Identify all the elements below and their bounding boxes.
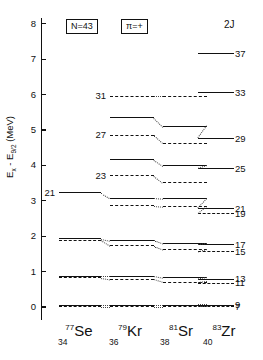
proton-number-kr: 36	[106, 338, 154, 347]
y-axis-line	[41, 18, 42, 320]
y-tick-1	[41, 271, 46, 272]
spin-label-left-2j21: 21	[33, 188, 55, 198]
parity-badge: π=+	[121, 19, 148, 34]
y-axis-title: Ex - E9/2 (MeV)	[5, 107, 19, 187]
connector-2j21	[154, 198, 163, 200]
spin-label-right-2j25: 25	[235, 164, 246, 174]
level-line-2j27-79Kr	[110, 135, 154, 136]
level-line-2j7-79Kr	[110, 306, 154, 307]
x-axis-label-se: 77Se34	[55, 322, 103, 347]
y-tick-label-7: 7	[20, 54, 36, 64]
spin-label-left-2j31: 31	[84, 91, 106, 101]
y-tick-7	[41, 59, 46, 60]
y-tick-0	[41, 306, 46, 307]
level-line-2j25-79Kr	[110, 159, 154, 160]
level-line-2j15-83Zr	[198, 251, 234, 252]
connector-2j19	[154, 206, 163, 208]
element-symbol-se: Se	[74, 322, 92, 339]
level-line-2j31-81Sr	[163, 96, 207, 97]
spin-column-header: 2J	[224, 19, 235, 30]
level-line-2j21-77Se	[59, 192, 101, 193]
level-line-2j21-79Kr	[110, 198, 154, 199]
element-symbol-sr: Sr	[178, 322, 193, 339]
connector-2j7	[154, 307, 163, 308]
proton-number-se: 34	[55, 338, 103, 347]
connector-2j11	[101, 278, 110, 280]
level-line-2j31-79Kr	[110, 96, 154, 97]
connector-2j25	[153, 160, 163, 167]
level-line-2j17-79Kr	[110, 240, 154, 241]
level-line-2j11-79Kr	[110, 279, 154, 280]
y-tick-2	[41, 236, 46, 237]
level-line-2j11-83Zr	[198, 283, 234, 284]
connector-2j29	[197, 126, 207, 139]
y-tick-3	[41, 200, 46, 201]
y-tick-label-6: 6	[20, 90, 36, 100]
level-scheme-figure: 012345678 Ex - E9/2 (MeV) N=43 π=+ 2J 37…	[0, 0, 263, 360]
proton-number-sr: 38	[157, 338, 205, 347]
connector-2j27	[153, 135, 163, 144]
y-tick-label-0: 0	[20, 302, 36, 312]
level-line-2j19-83Zr	[198, 213, 234, 214]
y-tick-6	[41, 94, 46, 95]
y-tick-4	[41, 165, 46, 166]
y-tick-label-8: 8	[20, 19, 36, 29]
level-line-2j29-83Zr	[198, 138, 234, 139]
connector-2j7	[198, 306, 207, 307]
connector-2j15	[154, 246, 163, 250]
level-line-2j29-79Kr	[110, 117, 154, 118]
level-line-2j13-79Kr	[110, 276, 154, 277]
level-line-2j19-79Kr	[110, 205, 154, 206]
y-axis-title-text: Ex - E9/2 (MeV)	[4, 116, 15, 178]
y-tick-label-2: 2	[20, 231, 36, 241]
level-line-2j25-83Zr	[198, 168, 234, 169]
neutron-number-badge: N=43	[66, 19, 98, 34]
y-tick-8	[41, 23, 46, 24]
spin-label-right-2j7: 7	[235, 302, 240, 312]
y-tick-5	[41, 129, 46, 130]
level-line-2j23-81Sr	[163, 182, 207, 183]
level-line-2j27-81Sr	[163, 143, 207, 144]
level-line-2j23-79Kr	[110, 175, 154, 176]
connector-2j23	[153, 176, 163, 184]
connector-2j13	[101, 276, 110, 277]
x-axis-label-kr: 79Kr36	[106, 322, 154, 347]
mass-number-se: 77	[65, 323, 74, 332]
proton-number-zr: 40	[200, 338, 248, 347]
spin-label-left-2j23: 23	[84, 171, 106, 181]
spin-label-right-2j15: 15	[235, 247, 246, 257]
connector-2j7	[101, 307, 110, 308]
element-symbol-kr: Kr	[127, 322, 142, 339]
connector-2j31	[154, 96, 163, 97]
mass-number-sr: 81	[169, 323, 178, 332]
x-axis-label-zr: 83Zr40	[200, 322, 248, 347]
level-line-2j29-81Sr	[163, 126, 207, 127]
spin-label-right-2j11: 11	[235, 278, 245, 288]
connector-2j17	[154, 240, 163, 244]
mass-number-kr: 79	[118, 323, 127, 332]
spin-label-right-2j19: 19	[235, 209, 246, 219]
level-line-2j11-77Se	[59, 277, 101, 278]
y-tick-label-1: 1	[20, 267, 36, 277]
x-axis-label-sr: 81Sr38	[157, 322, 205, 347]
spin-label-left-2j27: 27	[84, 130, 106, 140]
level-line-2j15-77Se	[59, 240, 101, 241]
y-tick-label-4: 4	[20, 160, 36, 170]
connector-2j29	[153, 118, 163, 128]
spin-label-right-2j29: 29	[235, 134, 246, 144]
connector-2j21	[100, 193, 109, 199]
level-line-2j21-81Sr	[163, 198, 207, 199]
connector-2j11	[154, 279, 163, 283]
spin-label-right-2j33: 33	[235, 88, 246, 98]
level-line-2j17-83Zr	[198, 244, 234, 245]
level-line-2j19-81Sr	[163, 206, 207, 207]
spin-label-right-2j37: 37	[235, 49, 246, 59]
level-line-2j13-83Zr	[198, 279, 234, 280]
level-line-2j7-77Se	[59, 306, 101, 307]
level-line-2j15-79Kr	[110, 245, 154, 246]
level-line-2j33-83Zr	[198, 92, 234, 93]
element-symbol-zr: Zr	[221, 322, 235, 339]
y-tick-label-5: 5	[20, 125, 36, 135]
level-line-2j37-83Zr	[198, 53, 234, 54]
